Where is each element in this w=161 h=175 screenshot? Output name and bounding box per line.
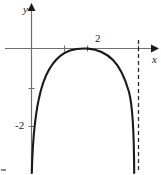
- x-tick-label-2: 2: [95, 33, 101, 44]
- y-axis-label: y: [23, 4, 28, 15]
- x-axis-arrowhead: [151, 45, 159, 53]
- plot-canvas: [0, 0, 161, 175]
- x-axis-label: x: [152, 54, 157, 65]
- curve-path: [32, 48, 134, 173]
- graph-figure: y x 2 -2: [0, 0, 161, 175]
- y-axis-arrowhead: [28, 3, 36, 11]
- y-tick-label-neg2: -2: [15, 120, 24, 131]
- corner-artifact-mark: [1, 169, 6, 171]
